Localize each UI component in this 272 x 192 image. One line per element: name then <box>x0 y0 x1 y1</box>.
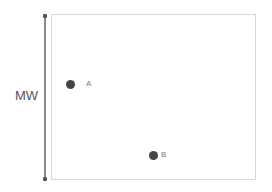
y-axis-arrow-bottom-icon <box>43 177 47 181</box>
data-point-b <box>149 151 158 160</box>
y-axis-line <box>44 15 46 180</box>
data-point-a <box>66 80 75 89</box>
data-point-a-label: A <box>86 79 91 88</box>
y-axis-arrow-top-icon <box>43 14 47 18</box>
y-axis-label: MW <box>15 88 38 103</box>
data-point-b-label: B <box>161 150 166 159</box>
